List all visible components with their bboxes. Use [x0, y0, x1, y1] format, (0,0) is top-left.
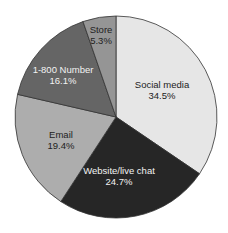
slice-label-value: 5.3% [90, 35, 113, 46]
slice-label: Website/live chat24.7% [83, 165, 155, 187]
slice-label-name: Store [90, 24, 113, 35]
pie-svg [0, 0, 228, 233]
slice-label: 1-800 Number16.1% [33, 64, 94, 86]
slice-label-name: 1-800 Number [33, 64, 94, 75]
slice-label-name: Social media [135, 79, 189, 90]
slice-label-value: 34.5% [135, 90, 189, 101]
slice-label-value: 24.7% [83, 176, 155, 187]
slice-label: Social media34.5% [135, 79, 189, 101]
pie-chart: Social media34.5%Website/live chat24.7%E… [0, 0, 228, 233]
slice-label: Store5.3% [90, 24, 113, 46]
slice-label: Email19.4% [48, 129, 75, 151]
slice-label-name: Email [48, 129, 75, 140]
slice-label-value: 16.1% [33, 75, 94, 86]
slice-label-value: 19.4% [48, 140, 75, 151]
slice-label-name: Website/live chat [83, 165, 155, 176]
